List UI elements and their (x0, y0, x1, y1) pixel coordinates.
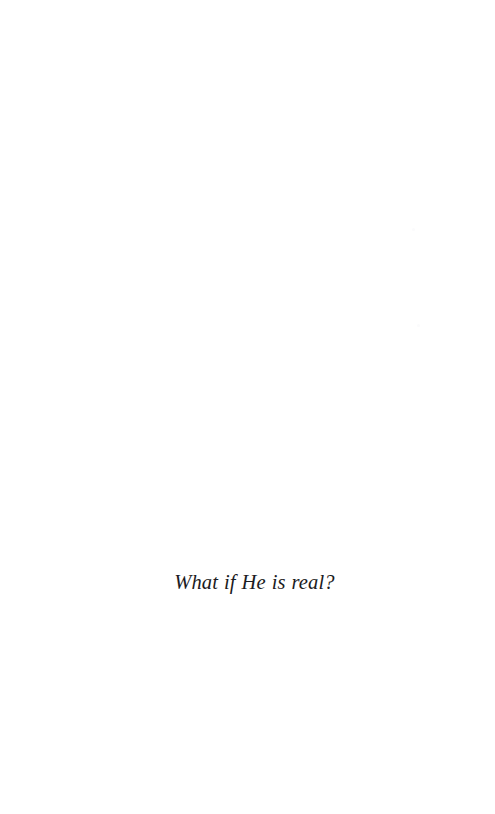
book-page: What if He is real? (0, 0, 495, 814)
page-lower-blank-area (0, 610, 495, 814)
page-upper-blank-area (0, 0, 495, 566)
epigraph-text: What if He is real? (174, 566, 335, 598)
epigraph-block: What if He is real? (0, 566, 495, 598)
